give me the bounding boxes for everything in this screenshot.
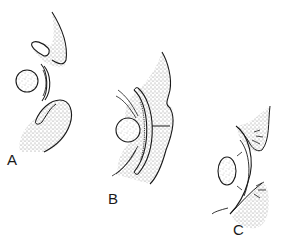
panel-label-b: B — [108, 191, 118, 206]
panel-label-a: A — [7, 152, 17, 167]
panel-a — [16, 12, 72, 152]
panel-b-sphere — [116, 118, 140, 142]
panel-c-sphere — [218, 157, 236, 185]
panel-a-sphere — [16, 70, 38, 92]
panel-c — [212, 106, 270, 228]
figure-illustration — [0, 0, 281, 244]
panel-label-c: C — [233, 222, 244, 237]
panel-b — [112, 52, 174, 184]
panel-a-lower-tissue — [20, 100, 72, 152]
panel-a-upper-tissue — [32, 12, 67, 67]
